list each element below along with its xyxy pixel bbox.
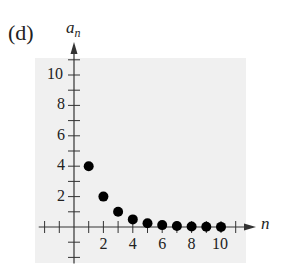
x-tick-label: 8	[188, 235, 196, 253]
y-tick-label: 8	[57, 95, 65, 113]
y-tick-label: 4	[57, 156, 65, 174]
data-point	[84, 161, 94, 171]
x-tick-label: 4	[129, 235, 137, 253]
plot-background	[35, 58, 246, 263]
y-axis-label: an	[66, 18, 81, 41]
data-point	[172, 221, 182, 231]
data-point	[128, 214, 138, 224]
x-axis-label: n	[261, 214, 270, 234]
data-point	[113, 207, 123, 217]
data-point	[143, 218, 153, 228]
y-tick-label: 10	[47, 65, 63, 83]
data-point	[216, 222, 226, 232]
data-point	[157, 220, 167, 230]
data-point	[187, 222, 197, 232]
x-tick-label: 6	[158, 235, 166, 253]
y-tick-label: 2	[57, 187, 65, 205]
x-tick-label: 2	[99, 235, 107, 253]
data-point	[201, 222, 211, 232]
y-tick-label: 6	[57, 126, 65, 144]
x-tick-label: 10	[212, 235, 228, 253]
data-point	[98, 192, 108, 202]
sequence-plot	[0, 0, 282, 276]
